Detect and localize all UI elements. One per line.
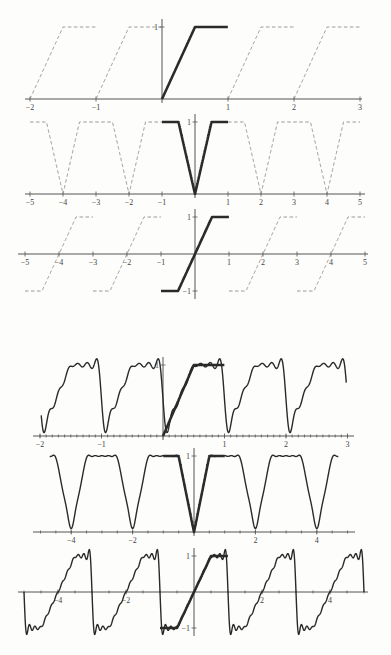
extension-curve-right [228, 27, 360, 99]
x-tick-label: 1 [226, 198, 230, 207]
x-tick-label: 5 [363, 258, 367, 267]
y-tick-label: 1 [186, 452, 190, 461]
y-tick-label: 1 [186, 552, 190, 561]
x-tick-label: −4 [55, 258, 64, 267]
x-tick-label: −2 [125, 198, 134, 207]
x-tick-label: 4 [315, 536, 319, 545]
x-tick-label: 2 [284, 440, 288, 449]
x-tick-label: −2 [123, 258, 132, 267]
panel-fourier-sine: −4−2241−1 [18, 548, 368, 636]
x-tick-label: 1 [223, 440, 227, 449]
x-tick-label: −1 [157, 258, 166, 267]
x-tick-label: −1 [97, 440, 106, 449]
panel-even-extension: −5−4−3−2−1123451 [25, 114, 365, 207]
extension-curve-left [30, 27, 162, 99]
panel-fourier-periodic: −2−11231 [33, 357, 354, 449]
panel-odd-extension: −5−4−3−2−1123451−1 [18, 209, 368, 299]
x-tick-label: −2 [128, 536, 137, 545]
base-function-curve [162, 27, 228, 99]
y-tick-label: 1 [187, 213, 191, 222]
x-tick-label: 4 [329, 258, 333, 267]
x-tick-label: −4 [67, 536, 76, 545]
x-tick-label: 3 [358, 103, 362, 112]
x-tick-label: 3 [292, 198, 296, 207]
extension-curve-left [30, 122, 162, 194]
y-tick-label: 1 [187, 118, 191, 127]
x-tick-label: 2 [261, 258, 265, 267]
x-tick-label: 3 [346, 440, 350, 449]
x-tick-label: 4 [325, 198, 329, 207]
x-tick-label: 2 [259, 198, 263, 207]
base-function-curve [163, 365, 225, 436]
fourier-approximation-curve [41, 359, 346, 433]
extension-curve-right [228, 122, 360, 194]
x-tick-label: 1 [226, 103, 230, 112]
x-tick-label: −2 [26, 103, 35, 112]
x-tick-label: 5 [358, 198, 362, 207]
x-tick-label: −4 [59, 198, 68, 207]
x-tick-label: −3 [92, 198, 101, 207]
x-tick-label: 2 [260, 596, 264, 605]
y-tick-label: 1 [154, 23, 158, 32]
x-tick-label: −5 [21, 258, 30, 267]
x-tick-label: 2 [292, 103, 296, 112]
y-tick-label: −1 [182, 287, 191, 296]
x-tick-label: −3 [89, 258, 98, 267]
x-tick-label: 3 [295, 258, 299, 267]
figure-canvas: −2−11231 −5−4−3−2−1123451 −5−4−3−2−11234… [0, 0, 391, 655]
y-tick-label: −1 [181, 624, 190, 633]
x-tick-label: −2 [36, 440, 45, 449]
panel-fourier-cosine: −4−2241 [33, 448, 355, 545]
panel-periodic-extension: −2−11231 [25, 19, 362, 112]
x-tick-label: −1 [92, 103, 101, 112]
x-tick-label: 2 [253, 536, 257, 545]
x-tick-label: −1 [158, 198, 167, 207]
x-tick-label: −5 [26, 198, 35, 207]
x-tick-label: 1 [227, 258, 231, 267]
x-tick-label: 4 [328, 596, 332, 605]
